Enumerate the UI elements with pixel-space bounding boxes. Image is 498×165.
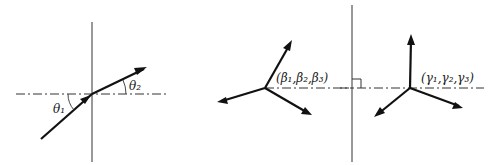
gamma-vector-down-left [378, 88, 410, 114]
refraction-panel: θ₁ θ₂ [16, 22, 168, 162]
right-angle-marker-icon [352, 79, 361, 88]
beta-direction-cosines-label: (β₁,β₂,β₃) [276, 71, 329, 85]
gamma-vector-up [410, 39, 411, 88]
gamma-arrowhead-up-icon [407, 34, 415, 45]
beta-tripod-panel: (β₁,β₂,β₃) [217, 40, 352, 115]
beta-vector-left [222, 88, 265, 101]
gamma-direction-cosines-label: (γ₁,γ₂,γ₃) [421, 71, 474, 85]
gamma-tripod-panel: (γ₁,γ₂,γ₃) [340, 5, 484, 162]
beta-arrowhead-left-icon [217, 97, 228, 104]
beta-vector-down-right [265, 88, 308, 113]
gamma-vector-down-right [410, 88, 459, 106]
theta2-arc [123, 80, 126, 94]
theta1-arc [68, 94, 74, 110]
theta1-label: θ₁ [53, 102, 65, 116]
diagram-figure: θ₁ θ₂ (β₁,β₂,β₃) (γ₁,γ₂,γ₃) [0, 0, 498, 165]
theta2-label: θ₂ [129, 79, 141, 93]
beta-arrowhead-up-icon [283, 40, 292, 51]
